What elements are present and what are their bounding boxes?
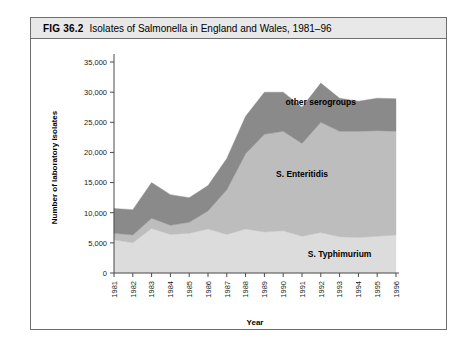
x-axis-tick-label: 1982: [129, 281, 138, 298]
x-axis-tick-label: 1991: [298, 281, 307, 298]
x-axis-tick-label: 1984: [166, 281, 175, 298]
y-axis-tick-label: 15,000: [84, 178, 107, 187]
series-label-s-typhimurium: S. Typhimurium: [308, 249, 372, 259]
x-axis-tick-label: 1992: [317, 281, 326, 298]
x-axis-tick-label: 1989: [260, 281, 269, 298]
y-axis-tick-label: 5,000: [88, 239, 107, 248]
x-axis-title: Year: [247, 318, 264, 327]
figure-title: Isolates of Salmonella in England and Wa…: [90, 23, 332, 34]
y-axis-tick-label: 0: [103, 269, 107, 278]
stacked-area-chart: 05,00010,00015,00020,00025,00030,00035,0…: [31, 39, 446, 330]
y-axis-tick-label: 10,000: [84, 209, 107, 218]
x-axis-tick-label: 1988: [241, 281, 250, 298]
y-axis-tick-label: 25,000: [84, 118, 107, 127]
x-axis-tick-label: 1996: [392, 281, 401, 298]
x-axis-tick-label: 1987: [223, 281, 232, 298]
x-axis-tick-label: 1994: [354, 281, 363, 298]
figure-title-bar: FIG 36.2 Isolates of Salmonella in Engla…: [31, 18, 446, 39]
x-axis-tick-label: 1983: [147, 281, 156, 298]
x-axis-tick-label: 1990: [279, 281, 288, 298]
series-label-s-enteritidis: S. Enteritidis: [276, 169, 328, 179]
y-axis-tick-label: 20,000: [84, 148, 107, 157]
figure-frame: FIG 36.2 Isolates of Salmonella in Engla…: [30, 17, 447, 330]
chart-area: 05,00010,00015,00020,00025,00030,00035,0…: [31, 39, 446, 330]
figure-number: FIG 36.2: [43, 23, 84, 34]
x-axis-tick-label: 1981: [110, 281, 119, 298]
y-axis-tick-label: 30,000: [84, 88, 107, 97]
x-axis-tick-label: 1986: [204, 281, 213, 298]
x-axis-tick-label: 1993: [335, 281, 344, 298]
x-axis-tick-label: 1985: [185, 281, 194, 298]
series-label-other-serogroups: other serogroups: [286, 97, 357, 107]
x-axis-tick-label: 1995: [373, 281, 382, 298]
y-axis-tick-label: 35,000: [84, 58, 107, 67]
y-axis-title: Number of laboratory isolates: [50, 110, 59, 224]
